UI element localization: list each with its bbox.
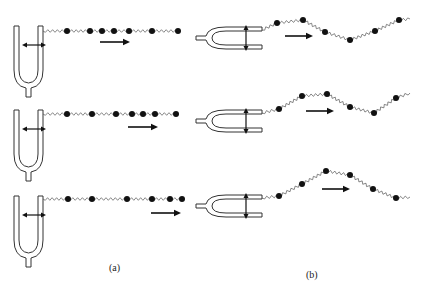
tuning-fork xyxy=(196,110,262,132)
spring-segment xyxy=(302,171,326,184)
spring-segment xyxy=(327,94,350,107)
panel-a-label: (a) xyxy=(109,262,120,273)
mass-bead xyxy=(175,28,181,34)
mass-bead xyxy=(167,196,173,202)
mass-bead xyxy=(393,195,399,201)
spring-segment xyxy=(68,198,92,201)
spring-segment xyxy=(127,198,152,201)
spring-segment xyxy=(303,20,325,32)
mass-bead xyxy=(89,196,95,202)
mass-bead xyxy=(64,28,70,34)
spring-segment xyxy=(43,198,68,201)
arrow-head xyxy=(343,186,350,192)
spring-segment xyxy=(92,113,116,116)
mass-bead xyxy=(126,28,132,34)
mass-bead xyxy=(179,196,185,202)
mass-bead xyxy=(65,196,71,202)
spring-segment xyxy=(92,198,127,201)
arrow-head xyxy=(123,39,130,45)
tuning-fork xyxy=(14,110,43,181)
mass-bead xyxy=(87,28,93,34)
spring-segment xyxy=(67,30,90,33)
tuning-fork xyxy=(14,26,43,97)
mass-bead xyxy=(299,181,305,187)
spring-segment xyxy=(302,93,327,97)
mass-bead xyxy=(372,28,378,34)
panel-b-label: (b) xyxy=(306,269,318,280)
spring-segment xyxy=(43,113,67,116)
spring-segment xyxy=(374,98,396,113)
mass-bead xyxy=(370,186,376,192)
tuning-fork xyxy=(14,196,43,267)
spring-segment xyxy=(350,175,373,189)
spring-segment xyxy=(155,113,176,116)
mass-bead xyxy=(89,111,95,117)
mass-bead xyxy=(129,111,135,117)
mass-bead xyxy=(347,104,353,110)
tuning-fork xyxy=(196,195,262,217)
spring-segment xyxy=(373,189,396,198)
spring-segment xyxy=(326,170,350,175)
mass-bead xyxy=(173,111,179,117)
spring-segment xyxy=(277,19,303,24)
spring-segment xyxy=(43,30,67,33)
spring-segment xyxy=(350,107,374,113)
mass-bead xyxy=(64,111,70,117)
tuning-fork xyxy=(196,27,262,49)
mass-bead xyxy=(322,29,328,35)
arrow-head xyxy=(151,124,158,130)
spring-segment xyxy=(325,32,350,40)
spring-segment xyxy=(350,31,375,40)
arrow-head xyxy=(174,210,181,216)
mass-bead xyxy=(347,172,353,178)
spring-segment xyxy=(279,96,302,109)
arrow-head xyxy=(327,108,334,114)
mass-bead xyxy=(276,106,282,112)
mass-bead xyxy=(140,111,146,117)
wave-diagram xyxy=(0,0,426,287)
mass-bead xyxy=(324,91,330,97)
mass-bead xyxy=(347,37,353,43)
mass-bead xyxy=(371,110,377,116)
mass-bead xyxy=(393,95,399,101)
mass-bead xyxy=(152,111,158,117)
spring-segment xyxy=(129,30,152,33)
mass-bead xyxy=(99,28,105,34)
spring-segment xyxy=(67,113,92,116)
mass-bead xyxy=(300,17,306,23)
mass-bead xyxy=(276,193,282,199)
mass-bead xyxy=(323,168,329,174)
spring-segment xyxy=(279,184,302,196)
mass-bead xyxy=(149,196,155,202)
mass-bead xyxy=(111,28,117,34)
mass-bead xyxy=(396,17,402,23)
mass-bead xyxy=(124,196,130,202)
arrow-head xyxy=(306,33,313,39)
mass-bead xyxy=(149,28,155,34)
mass-bead xyxy=(274,20,280,26)
mass-bead xyxy=(113,111,119,117)
spring-segment xyxy=(375,20,399,31)
mass-bead xyxy=(299,93,305,99)
spring-segment xyxy=(152,30,178,33)
